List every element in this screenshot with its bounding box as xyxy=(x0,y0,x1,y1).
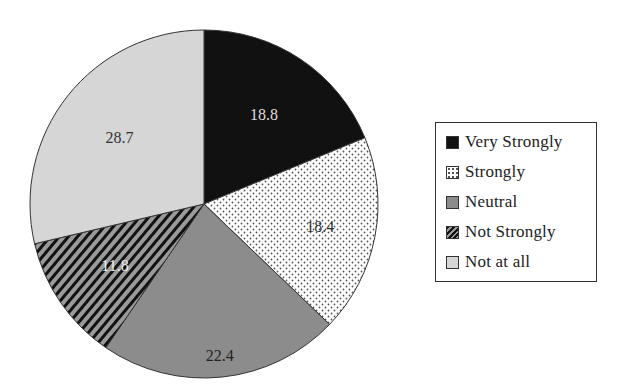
legend-label: Neutral xyxy=(465,192,517,212)
legend-item-not-at-all: Not at all xyxy=(446,249,530,275)
slice-value-label: 18.4 xyxy=(306,218,334,235)
legend-item-very-strongly: Very Strongly xyxy=(446,129,563,155)
legend-swatch-very-strongly xyxy=(446,136,459,149)
legend-label: Very Strongly xyxy=(465,132,563,152)
slice-value-label: 11.8 xyxy=(101,257,128,274)
slice-value-label: 22.4 xyxy=(206,347,234,364)
legend-swatch-strongly xyxy=(446,166,459,179)
legend-label: Not at all xyxy=(465,252,530,272)
legend-item-neutral: Neutral xyxy=(446,189,517,215)
legend-swatch-not-strongly xyxy=(446,226,459,239)
slice-value-label: 18.8 xyxy=(250,106,278,123)
legend-swatch-not-at-all xyxy=(446,256,459,269)
legend-label: Not Strongly xyxy=(465,222,556,242)
chart-legend: Very Strongly Strongly Neutral Not Stron… xyxy=(435,122,597,282)
legend-label: Strongly xyxy=(465,162,525,182)
legend-swatch-neutral xyxy=(446,196,459,209)
legend-item-not-strongly: Not Strongly xyxy=(446,219,556,245)
slice-value-label: 28.7 xyxy=(105,129,133,146)
legend-item-strongly: Strongly xyxy=(446,159,525,185)
